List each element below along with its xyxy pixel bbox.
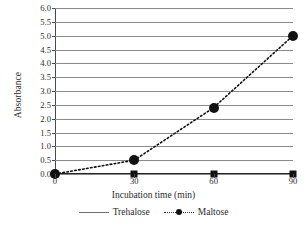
- x-tick-label: 90: [289, 177, 298, 186]
- plot-area: [55, 8, 293, 174]
- data-point-maltose: [129, 155, 139, 165]
- y-tick-label: 3.5: [40, 73, 51, 82]
- series-line-maltose: [55, 36, 293, 174]
- legend-label-maltose: Maltose: [198, 207, 229, 217]
- y-tick-label: 1.0: [40, 142, 51, 151]
- x-tick-label: 30: [130, 177, 139, 186]
- chart-legend: Trehalose Maltose: [0, 207, 307, 217]
- y-tick-label: 1.5: [40, 128, 51, 137]
- y-tick-label: 4.0: [40, 59, 51, 68]
- y-axis-title: Absorbance: [10, 40, 26, 150]
- y-tick-label: 4.5: [40, 45, 51, 54]
- legend-entry-trehalose[interactable]: Trehalose: [79, 207, 150, 217]
- legend-entry-maltose[interactable]: Maltose: [164, 207, 229, 217]
- x-tick-label: 60: [209, 177, 218, 186]
- y-axis-title-text: Absorbance: [13, 72, 23, 118]
- y-tick-label: 3.0: [40, 87, 51, 96]
- y-tick-label: 6.0: [40, 4, 51, 13]
- chart-figure: Absorbance 0.00.51.01.52.02.53.03.54.04.…: [0, 0, 307, 231]
- y-tick-label: 0.5: [40, 156, 51, 165]
- legend-label-trehalose: Trehalose: [113, 207, 150, 217]
- legend-swatch-solid-line-icon: [79, 207, 109, 217]
- y-tick-label: 5.5: [40, 18, 51, 27]
- data-point-maltose: [288, 31, 298, 41]
- y-tick-label: 5.0: [40, 31, 51, 40]
- y-tick-label: 2.5: [40, 101, 51, 110]
- series-layer: [55, 8, 293, 174]
- data-point-maltose: [209, 103, 219, 113]
- x-axis-title: Incubation time (min): [0, 190, 307, 200]
- x-axis-tick-labels: 0306090: [55, 177, 293, 189]
- y-axis-tick-labels: 0.00.51.01.52.02.53.03.54.04.55.05.56.0: [26, 8, 52, 174]
- legend-swatch-dotted-line-circle-icon: [164, 207, 194, 217]
- y-tick-label: 2.0: [40, 114, 51, 123]
- x-tick-label: 0: [53, 177, 57, 186]
